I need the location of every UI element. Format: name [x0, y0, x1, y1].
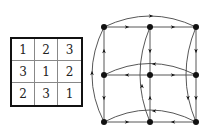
graph-node [101, 24, 107, 30]
graph-node [101, 119, 107, 125]
graph-node [147, 119, 153, 125]
graph-node [101, 72, 107, 78]
graph-node [193, 24, 199, 30]
graph-node [193, 72, 199, 78]
graph-node [147, 72, 153, 78]
directed-graph [0, 0, 208, 134]
graph-node [147, 24, 153, 30]
graph-node [193, 119, 199, 125]
